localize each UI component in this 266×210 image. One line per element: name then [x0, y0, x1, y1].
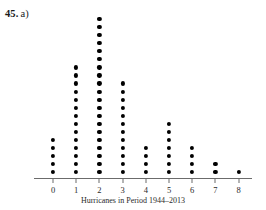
dot: [74, 130, 78, 134]
dot: [213, 170, 217, 174]
dot: [97, 114, 101, 118]
dot: [144, 146, 148, 150]
x-axis-title: Hurricanes in Period 1944–2013: [0, 196, 266, 205]
dot: [121, 122, 125, 126]
dot: [51, 146, 55, 150]
dot: [97, 162, 101, 166]
dot: [97, 49, 101, 53]
tick-label-7: 7: [213, 185, 217, 195]
dot: [121, 154, 125, 158]
dot: [121, 81, 125, 85]
dot: [74, 162, 78, 166]
dot: [190, 154, 194, 158]
tick-mark-7: [215, 179, 216, 183]
dot: [167, 130, 171, 134]
tick-label-6: 6: [190, 185, 194, 195]
dot: [121, 162, 125, 166]
dot: [97, 25, 101, 29]
tick-mark-2: [99, 179, 100, 183]
dot: [167, 154, 171, 158]
dot: [190, 170, 194, 174]
dot: [167, 162, 171, 166]
dot: [74, 97, 78, 101]
tick-mark-0: [53, 179, 54, 183]
tick-label-4: 4: [144, 185, 148, 195]
tick-label-1: 1: [74, 185, 78, 195]
x-axis-line: [34, 178, 252, 179]
dot: [97, 154, 101, 158]
dot: [121, 89, 125, 93]
tick-mark-8: [238, 179, 239, 183]
dot: [97, 17, 101, 21]
dot: [121, 138, 125, 142]
tick-label-5: 5: [167, 185, 171, 195]
tick-label-3: 3: [120, 185, 124, 195]
dot: [121, 97, 125, 101]
dot: [167, 122, 171, 126]
dot: [74, 73, 78, 77]
tick-mark-4: [145, 179, 146, 183]
dot: [74, 65, 78, 69]
tick-label-2: 2: [97, 185, 101, 195]
dot: [97, 57, 101, 61]
dot: [121, 170, 125, 174]
dot: [97, 73, 101, 77]
dot: [167, 146, 171, 150]
plot-area: 012345678 Hurricanes in Period 1944–2013: [0, 0, 266, 210]
dot: [237, 170, 241, 174]
dot: [144, 170, 148, 174]
tick-mark-5: [169, 179, 170, 183]
dotplot-figure: 45.a) 012345678 Hurricanes in Period 194…: [0, 0, 266, 210]
dot: [97, 33, 101, 37]
dot: [97, 170, 101, 174]
tick-mark-3: [122, 179, 123, 183]
dot: [74, 122, 78, 126]
tick-label-8: 8: [236, 185, 240, 195]
dot: [144, 162, 148, 166]
dot: [121, 114, 125, 118]
tick-label-0: 0: [51, 185, 55, 195]
tick-mark-1: [76, 179, 77, 183]
dot: [74, 138, 78, 142]
dot: [97, 97, 101, 101]
dot: [97, 138, 101, 142]
dot: [74, 170, 78, 174]
dot: [51, 138, 55, 142]
dot: [51, 170, 55, 174]
dot: [97, 146, 101, 150]
dot: [97, 130, 101, 134]
tick-mark-6: [192, 179, 193, 183]
dot: [97, 65, 101, 69]
dot: [97, 106, 101, 110]
dot: [74, 114, 78, 118]
dot: [97, 41, 101, 45]
dot: [121, 106, 125, 110]
dot: [74, 146, 78, 150]
dot: [213, 162, 217, 166]
dot: [144, 154, 148, 158]
dot: [97, 89, 101, 93]
dot: [121, 146, 125, 150]
dot: [51, 154, 55, 158]
dot: [121, 130, 125, 134]
dot: [51, 162, 55, 166]
dot: [74, 89, 78, 93]
dot: [97, 122, 101, 126]
dot: [190, 162, 194, 166]
dot: [97, 81, 101, 85]
dot: [190, 146, 194, 150]
dot: [74, 154, 78, 158]
dot: [167, 170, 171, 174]
dot: [74, 106, 78, 110]
dot: [74, 81, 78, 85]
dot: [167, 138, 171, 142]
